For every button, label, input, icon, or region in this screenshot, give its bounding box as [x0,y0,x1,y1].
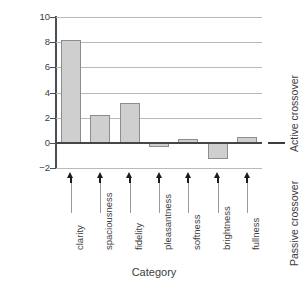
leader-line [130,183,131,213]
y-axis-tick-label: 2 [22,113,50,123]
gridline [56,118,262,119]
x-axis-title: Category [0,266,308,278]
leader-line [159,183,160,213]
y-axis-tick-label: 4 [22,88,50,98]
x-axis-label-pleasantness: pleasantness [163,194,173,250]
leader-line [188,183,189,213]
x-axis-label-softness: softness [192,215,202,250]
bar-chart-figure: Comparison −20246810 clarityspaciousness… [0,0,308,286]
y-axis-tick-label: 0 [22,138,50,148]
y-axis-tick-label: 6 [22,62,50,72]
annotation-active-crossover: Active crossover [288,75,300,152]
zero-baseline [56,142,262,144]
bar-fidelity [120,103,140,143]
gridline [56,168,262,169]
y-axis-tick-label: −2 [22,163,50,173]
x-axis-label-spaciousness: spaciousness [104,192,114,250]
bar-brightness [208,143,228,159]
x-axis-label-fullness: fullness [251,218,261,250]
leader-line [71,183,72,213]
y-axis-tick-label: 10 [22,12,50,22]
x-axis-label-brightness: brightness [222,206,232,250]
leader-line [247,183,248,213]
gridline [56,42,262,43]
x-axis-label-clarity: clarity [75,225,85,250]
annotation-passive-crossover: Passive crossover [288,181,300,266]
leader-line [100,183,101,213]
gridline [56,17,262,18]
gridline [56,93,262,94]
bar-spaciousness [90,115,110,143]
plot-area [56,17,262,168]
x-axis-label-fidelity: fidelity [134,223,144,250]
gridline [56,67,262,68]
bar-clarity [61,40,81,143]
leader-line [218,183,219,213]
annotation-divider [268,142,285,144]
y-axis-tick-label: 8 [22,37,50,47]
